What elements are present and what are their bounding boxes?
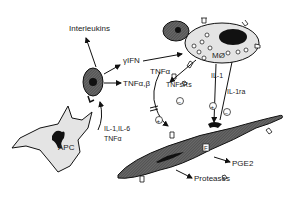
- label-il1: IL-1: [211, 72, 223, 79]
- label-apc: APC: [58, 143, 75, 152]
- apc-cell: [12, 106, 92, 172]
- plus-sign-il1: +: [211, 104, 215, 110]
- arrow-pge2: [214, 157, 230, 162]
- label-il1-il6: IL-1,IL-6: [104, 125, 130, 132]
- label-proteases: Proteases: [194, 174, 230, 183]
- fibroblast: [118, 115, 283, 178]
- sign-markers: [156, 98, 231, 124]
- immune-diagram: Interleukins γIFN TNFα,β TNFα TNFsRs IL-…: [0, 0, 296, 205]
- arrow-apc-to-t: [98, 102, 102, 130]
- arrow-yifn: [104, 65, 120, 74]
- minus-sign: −: [178, 99, 182, 105]
- label-yifn: γIFN: [123, 56, 140, 65]
- label-tnfab: TNFα,β: [123, 79, 150, 88]
- label-tnfsrs: TNFsRs: [166, 81, 192, 88]
- arrow-interleukins: [86, 38, 96, 67]
- plus-sign: +: [157, 118, 161, 124]
- t-cell: [83, 68, 103, 96]
- receptor-block: [208, 122, 222, 128]
- label-tnfa: TNFα: [150, 67, 171, 76]
- macrophage: [163, 21, 259, 63]
- label-pge2: PGE2: [232, 159, 254, 168]
- arrow-mo-to-tnf: [170, 60, 196, 82]
- label-interleukins: Interleukins: [69, 24, 110, 33]
- minus-sign-il1ra: −: [225, 110, 229, 116]
- label-apc-tnfa: TNFα: [104, 135, 122, 142]
- label-il1ra: IL-1ra: [227, 88, 245, 95]
- arrow-proteases: [176, 170, 192, 178]
- arrow-yifn-to-mo: [143, 54, 182, 61]
- label-mo: MØ: [212, 51, 225, 60]
- label-fibroblast: F: [204, 145, 208, 151]
